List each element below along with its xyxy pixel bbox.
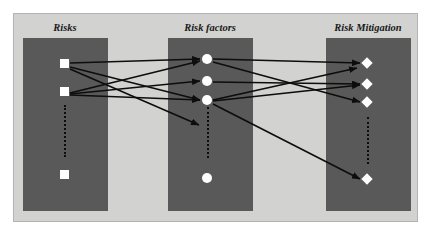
- column-panel-risk-factors: [168, 38, 253, 211]
- column-label-risk-factors: Risk factors: [184, 22, 236, 33]
- ellipsis-risk-factors: [207, 107, 209, 158]
- ellipsis-risks: [64, 105, 66, 157]
- node-square-r1[interactable]: [60, 59, 69, 68]
- column-label-risks: Risks: [53, 22, 76, 33]
- diagram-frame: RisksRisk factorsRisk Mitigation: [13, 13, 418, 222]
- node-circle-f3[interactable]: [202, 95, 212, 105]
- ellipsis-risk-mitigation: [367, 117, 369, 164]
- node-circle-f4[interactable]: [202, 173, 212, 183]
- risk-mapping-diagram: RisksRisk factorsRisk Mitigation: [0, 0, 431, 239]
- node-square-r2[interactable]: [60, 87, 69, 96]
- column-label-risk-mitigation: Risk Mitigation: [334, 22, 401, 33]
- node-circle-f1[interactable]: [202, 54, 212, 64]
- node-square-r3[interactable]: [60, 170, 69, 179]
- node-circle-f2[interactable]: [202, 76, 212, 86]
